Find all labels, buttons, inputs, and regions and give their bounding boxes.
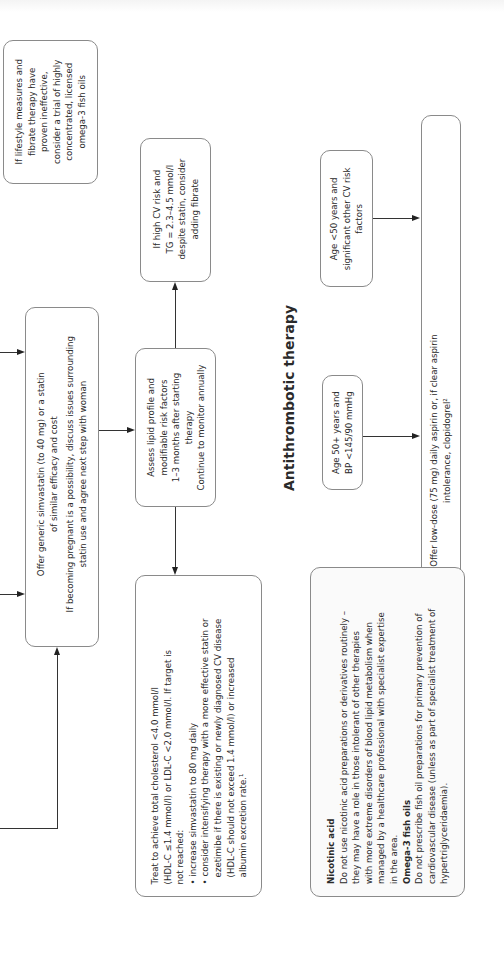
arrow-up-icon: [54, 647, 60, 655]
arrow-down-icon: [172, 567, 178, 575]
omega-line: cardiovascular disease (unless as part o…: [425, 568, 438, 884]
connector-line: [0, 594, 18, 595]
nicotinic-line: Do not use nicotinic acid preparations o…: [337, 568, 350, 884]
fish-oil-line: omega-3 fish oils: [76, 42, 89, 182]
treat-line: not reached:: [173, 584, 186, 884]
omega-line: hypertriglyceridaemia).: [438, 568, 451, 884]
age-50-plus-line: Age 50+ years and: [330, 377, 343, 487]
age-50-plus-line: BP <145/90 mmHg: [343, 377, 356, 487]
arrow-right-icon: [17, 591, 25, 597]
notes-box: Nicotinic acid Do not use nicotinic acid…: [310, 567, 465, 897]
assess-lipid-box: Assess lipid profile and modifiable risk…: [135, 348, 216, 507]
assess-line: modifiable risk factors: [157, 349, 170, 504]
statin-line: Offer generic simvastatin (to 40 mg) or …: [35, 309, 48, 639]
treat-line: • consider intensifying therapy with a m…: [199, 584, 212, 884]
arrow-right-icon: [127, 427, 135, 433]
connector-line: [363, 436, 413, 437]
fibrate-line: adding fibrate: [188, 139, 201, 279]
treat-target-box: Treat to achieve total cholesterol <4.0 …: [135, 575, 262, 897]
nicotinic-line: managed by a healthcare professional wit…: [375, 568, 388, 884]
age-under-50-box: Age <50 years and significant other CV r…: [320, 150, 373, 287]
connector-line: [0, 828, 57, 829]
nicotinic-line: in the area.: [388, 568, 401, 884]
arrow-right-icon: [412, 215, 420, 221]
statin-line: If becoming pregnant is a possibility, d…: [64, 309, 77, 639]
assess-line: 1–3 months after starting: [170, 349, 183, 504]
fish-oil-line: consider a trial of highly: [51, 42, 64, 182]
statin-line: of similar efficacy and cost: [47, 309, 60, 639]
connector-line: [99, 430, 127, 431]
connector-line: [373, 218, 413, 219]
nicotinic-line: they may have a role in those intolerant…: [350, 568, 363, 884]
connector-line: [175, 507, 176, 567]
arrow-up-icon: [172, 282, 178, 290]
treat-line: • increase simvastatin to 80 mg daily: [186, 584, 199, 884]
connector-line: [57, 655, 58, 829]
assess-line: Continue to monitor annually: [195, 349, 208, 504]
assess-line: Assess lipid profile and: [145, 349, 158, 504]
nicotinic-heading: Nicotinic acid: [325, 568, 338, 884]
fish-oil-line: If lifestyle measures and: [13, 42, 26, 182]
age-under-50-line: significant other CV risk: [340, 153, 353, 283]
fibrate-box: If high CV risk and TG = 2.3–4.5 mmol/l …: [140, 138, 211, 282]
connector-line: [0, 352, 18, 353]
fish-oil-line: proven ineffective,: [38, 42, 51, 182]
arrow-right-icon: [17, 349, 25, 355]
page-top-edge: [0, 0, 504, 12]
treat-line: Treat to achieve total cholesterol <4.0 …: [148, 584, 161, 884]
fish-oil-box: If lifestyle measures and fibrate therap…: [3, 40, 98, 184]
treat-line: albumin excretion rate.¹: [236, 584, 249, 884]
treat-line: (HDL-C ≤1.4 mmol/l) or LDL-C <2.0 mmol/l…: [161, 584, 174, 884]
treat-line: (HDL-C should not exceed 1.4 mmol/l) or …: [224, 584, 237, 884]
statin-box: Offer generic simvastatin (to 40 mg) or …: [25, 307, 99, 647]
age-50-plus-box: Age 50+ years and BP <145/90 mmHg: [322, 375, 363, 490]
arrow-right-icon: [412, 433, 420, 439]
fibrate-line: TG = 2.3–4.5 mmol/l: [163, 139, 176, 279]
fibrate-line: If high CV risk and: [150, 139, 163, 279]
age-under-50-line: Age <50 years and: [328, 153, 341, 283]
fibrate-line: despite statin, consider: [176, 139, 189, 279]
assess-line: therapy: [182, 349, 195, 504]
omega-line: Do not prescribe fish oil preparations f…: [413, 568, 426, 884]
fish-oil-line: fibrate therapy have: [25, 42, 38, 182]
nicotinic-line: with more extreme disorders of blood lip…: [362, 568, 375, 884]
fish-oil-line: concentrated, licensed: [63, 42, 76, 182]
age-under-50-line: factors: [353, 153, 366, 283]
connector-line: [175, 288, 176, 348]
statin-line: statin use and agree next step with woma…: [77, 309, 90, 639]
omega-heading: Omega-3 fish oils: [400, 568, 413, 884]
treat-line: ezetimibe if there is existing or newly …: [211, 584, 224, 884]
